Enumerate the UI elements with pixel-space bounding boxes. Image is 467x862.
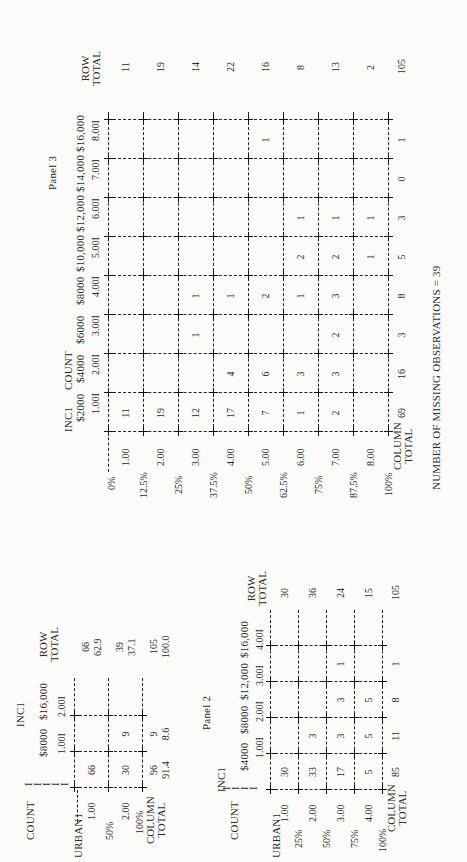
grid-intersection — [104, 116, 113, 125]
row-code: 1.00 — [279, 805, 290, 823]
grid-intersection — [244, 194, 253, 203]
row-code: 7.00 — [330, 449, 341, 467]
column-total-label: COLUMN TOTAL — [392, 422, 414, 470]
column-total: 1 — [396, 125, 407, 155]
table-cell: 3 — [330, 281, 341, 311]
row-variable-label: URBAN1 — [72, 813, 84, 858]
grid-intersection — [384, 194, 393, 203]
grid-intersection — [279, 116, 288, 125]
col-header-code: 3.00I — [90, 315, 101, 336]
table-cell: 17 — [335, 757, 346, 787]
table-cell: 30 — [120, 755, 131, 785]
grid-intersection — [279, 272, 288, 281]
grid-intersection — [384, 389, 393, 398]
row-code: 8.00 — [365, 449, 376, 467]
grid-intersection — [384, 155, 393, 164]
grand-total: 105 — [390, 585, 401, 600]
table-cell: 2 — [330, 398, 341, 428]
col-header-value: $16,000 — [74, 115, 86, 152]
count-axis-ticks: IIII — [222, 787, 258, 790]
table-cell: 2 — [295, 242, 306, 272]
grid-intersection — [104, 389, 113, 398]
table-cell: 1 — [365, 203, 376, 233]
col-header-value: $12,000 — [74, 195, 86, 232]
col-header-code: 1.00I — [254, 737, 265, 758]
grid-intersection — [384, 272, 393, 281]
column-total: 0 — [396, 164, 407, 194]
row-pct: 100% — [383, 473, 394, 496]
grid-intersection — [174, 350, 183, 359]
count-axis-ticks: IIIII — [24, 783, 69, 786]
row-pct: 12.5% — [138, 472, 149, 498]
row-code: 4.00 — [225, 449, 236, 467]
column-total: 3 — [396, 203, 407, 233]
grid-intersection — [244, 350, 253, 359]
row-code: 5.00 — [260, 449, 271, 467]
col-header-code: 2.00I — [56, 696, 67, 717]
row-total: 11 — [120, 62, 131, 72]
table-cell: 66 — [86, 755, 97, 785]
row-var-leader — [108, 432, 109, 472]
row-total: 39 — [114, 642, 125, 652]
row-total: 14 — [190, 62, 201, 72]
grid-intersection — [244, 233, 253, 242]
row-total: 13 — [330, 62, 341, 72]
column-total-pct: 8.6 — [160, 719, 171, 749]
grid-intersection — [139, 116, 148, 125]
grid-intersection — [384, 350, 393, 359]
row-code: 2.00 — [307, 805, 318, 823]
table-cell: 6 — [260, 359, 271, 389]
grid-intersection — [209, 194, 218, 203]
table-cell: 1 — [190, 320, 201, 350]
grid-intersection — [209, 116, 218, 125]
table-cell: 3 — [335, 685, 346, 715]
grid-intersection — [139, 389, 148, 398]
col-header-code: 2.00I — [90, 354, 101, 375]
col-header-value: $8000 — [238, 706, 250, 735]
column-total: 11 — [390, 721, 401, 751]
row-total: 8 — [295, 65, 306, 70]
grid-intersection — [209, 311, 218, 320]
column-total: 5 — [396, 242, 407, 272]
grid-intersection — [244, 428, 253, 437]
grid-intersection — [209, 233, 218, 242]
grid-line — [298, 610, 299, 790]
grand-total-pct: 100.0 — [160, 636, 171, 659]
grid-intersection — [104, 272, 113, 281]
panel-3-caption: Panel 3 — [46, 156, 58, 190]
grid-intersection — [279, 428, 288, 437]
col-header-code: 3.00I — [254, 665, 265, 686]
column-total: 85 — [390, 757, 401, 787]
row-total: 2 — [365, 65, 376, 70]
table-cell: 3 — [335, 721, 346, 751]
grid-intersection — [174, 194, 183, 203]
col-header-value: $4000 — [74, 355, 86, 384]
grid-intersection — [314, 311, 323, 320]
col-header-code: 6.00I — [90, 198, 101, 219]
row-pct: 50% — [243, 476, 254, 494]
grand-total: 105 — [396, 59, 407, 74]
grid-intersection — [349, 272, 358, 281]
grid-intersection — [279, 233, 288, 242]
panel-2-count-label: COUNT — [228, 801, 240, 840]
grid-intersection — [244, 311, 253, 320]
col-header-value: $4000 — [238, 743, 250, 772]
col-header-value: $6000 — [74, 316, 86, 345]
table-cell: 19 — [155, 398, 166, 428]
grid-line — [382, 610, 383, 790]
row-total-pct: 62.9 — [92, 639, 103, 657]
missing-observations-note: NUMBER OF MISSING OBSERVATIONS = 39 — [430, 265, 442, 490]
table-cell: 30 — [279, 757, 290, 787]
grid-intersection — [174, 233, 183, 242]
row-total: 16 — [260, 62, 271, 72]
grid-intersection — [209, 428, 218, 437]
panel-3-title: INC1 — [62, 407, 74, 432]
top-pct: 0% — [106, 477, 117, 490]
table-cell: 11 — [120, 398, 131, 428]
row-code: 3.00 — [190, 449, 201, 467]
grid-intersection — [314, 155, 323, 164]
grid-intersection — [314, 116, 323, 125]
column-total: 1 — [390, 649, 401, 679]
column-total: 69 — [396, 398, 407, 428]
row-pct: 25% — [173, 476, 184, 494]
